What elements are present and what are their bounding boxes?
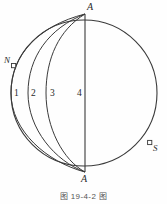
- vertex-label-bottom: A: [81, 174, 87, 184]
- curve-label-2: 2: [31, 89, 36, 99]
- curve-label-4: 4: [77, 89, 82, 99]
- figure-caption: 图 19-4-2 图: [0, 190, 167, 201]
- north-pole-marker-icon: [12, 64, 16, 68]
- vertex-label-top: A: [87, 2, 93, 12]
- great-circle-arc-1: [11, 14, 85, 172]
- south-pole-marker-icon: [148, 140, 152, 144]
- south-pole-label: S: [153, 144, 158, 153]
- figure-container: A A N S 1 2 3 4 图 19-4-2 图: [0, 0, 167, 204]
- curve-label-3: 3: [50, 89, 55, 99]
- north-pole-label: N: [4, 56, 10, 65]
- curve-label-1: 1: [14, 89, 19, 99]
